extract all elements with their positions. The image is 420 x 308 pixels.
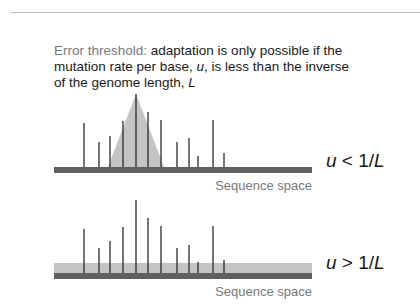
top-panel-graphic [54,94,312,173]
axis-label-top: Sequence space [200,178,312,193]
population-distribution-flat [54,263,312,273]
sequence-axis-top [54,167,312,173]
fitness-peaks-bottom [84,200,224,273]
axis-label-bottom: Sequence space [200,284,312,299]
sequence-axis-bottom [54,273,312,279]
condition-label-top: u < 1/L [326,150,385,172]
bottom-panel-graphic [54,200,312,279]
condition-label-bottom: u > 1/L [326,252,385,274]
